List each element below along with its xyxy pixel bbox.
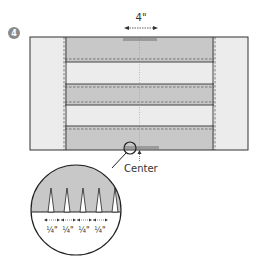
quilt-panel [30,37,248,150]
arrow-left-icon [124,26,129,30]
center-label: Center [124,163,159,174]
quarter-label-2: ¼" [62,226,73,235]
step-number: 4 [11,29,17,38]
width-measure-label: 4" [136,12,147,23]
quarter-label-3: ¼" [78,226,89,235]
quarter-label-4: ¼" [94,226,105,235]
arrow-up-icon [138,150,142,154]
magnified-detail: ¼" ¼" ¼" ¼" [30,160,122,257]
side-panel-left [30,37,65,150]
side-panel-right [214,37,248,150]
arrow-right-icon [153,26,158,30]
width-measure: 4" [124,12,158,30]
quarter-label-1: ¼" [46,226,57,235]
step-badge: 4 [8,27,20,39]
quilt-diagram: 4 4" [0,0,261,263]
